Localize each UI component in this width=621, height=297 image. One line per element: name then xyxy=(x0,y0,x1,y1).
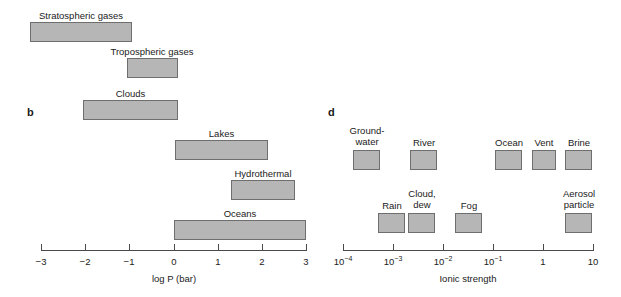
bar-stratospheric-gases xyxy=(30,22,132,42)
bar-fog xyxy=(455,213,482,233)
axis-tick-label-d-3: 10−1 xyxy=(473,256,513,267)
tick-base-d-4: 1 xyxy=(540,256,545,267)
bar-label-brine: Brine xyxy=(558,137,600,148)
bar-tropospheric-gases xyxy=(127,58,178,78)
bar-rain xyxy=(378,213,405,233)
bar-label-clouds: Clouds xyxy=(83,88,178,99)
bar-label-stratospheric-gases: Stratospheric gases xyxy=(30,10,132,21)
axis-title-panel-b: log P (bar) xyxy=(114,273,234,284)
axis-tick-label-b-5: 2 xyxy=(242,256,282,267)
axis-tick-d-2 xyxy=(443,244,444,251)
bar-label-fog: Fog xyxy=(448,200,490,211)
bar-river xyxy=(410,150,437,170)
bar-aerosol-particle xyxy=(565,213,592,233)
tick-base-d-2: 10 xyxy=(434,256,445,267)
axis-tick-label-d-2: 10−2 xyxy=(423,256,463,267)
bar-oceans xyxy=(174,220,306,240)
bar-label-hydrothermal: Hydrothermal xyxy=(229,168,297,179)
axis-tick-b-3 xyxy=(174,244,175,251)
tick-exp-d-2: −2 xyxy=(444,255,452,262)
axis-tick-label-b-3: 0 xyxy=(154,256,194,267)
axis-tick-label-b-6: 3 xyxy=(286,256,326,267)
axis-tick-b-5 xyxy=(262,244,263,251)
panel-letter-d: d xyxy=(328,106,335,118)
bar-label-cloud-dew: Cloud, dew xyxy=(399,188,445,210)
figure-canvas: b Stratospheric gases Tropospheric gases… xyxy=(0,0,621,297)
axis-tick-d-1 xyxy=(393,244,394,251)
bar-label-river: River xyxy=(403,137,445,148)
bar-ocean xyxy=(495,150,522,170)
tick-base-d-5: 10 xyxy=(588,256,599,267)
bar-hydrothermal xyxy=(231,180,295,200)
axis-tick-label-b-2: −1 xyxy=(109,256,149,267)
axis-tick-label-b-0: −3 xyxy=(21,256,61,267)
tick-exp-d-0: −4 xyxy=(344,255,352,262)
bar-clouds xyxy=(83,100,178,120)
panel-letter-b: b xyxy=(27,106,34,118)
axis-tick-label-d-1: 10−3 xyxy=(373,256,413,267)
axis-tick-b-1 xyxy=(85,244,86,251)
tick-base-d-0: 10 xyxy=(334,256,345,267)
bar-label-tropospheric-gases: Tropospheric gases xyxy=(102,46,202,57)
axis-tick-b-2 xyxy=(129,244,130,251)
axis-title-panel-d: Ionic strength xyxy=(408,273,528,284)
axis-tick-b-0 xyxy=(41,244,42,251)
bar-groundwater xyxy=(353,150,380,170)
axis-tick-d-0 xyxy=(343,244,344,251)
axis-tick-d-5 xyxy=(593,244,594,251)
axis-tick-label-d-0: 10−4 xyxy=(323,256,363,267)
bar-label-aerosol-particle: Aerosol particle xyxy=(552,188,606,210)
bar-brine xyxy=(565,150,592,170)
axis-tick-label-b-1: −2 xyxy=(65,256,105,267)
axis-tick-d-3 xyxy=(493,244,494,251)
bar-label-groundwater: Ground- water xyxy=(344,125,390,147)
axis-tick-b-4 xyxy=(218,244,219,251)
bar-label-lakes: Lakes xyxy=(175,128,268,139)
tick-base-d-1: 10 xyxy=(384,256,395,267)
axis-tick-label-b-4: 1 xyxy=(198,256,238,267)
bar-lakes xyxy=(175,140,268,160)
axis-tick-b-6 xyxy=(306,244,307,251)
bar-label-oceans: Oceans xyxy=(174,208,306,219)
axis-tick-d-4 xyxy=(543,244,544,251)
axis-tick-label-d-5: 10 xyxy=(573,256,613,267)
tick-exp-d-1: −3 xyxy=(394,255,402,262)
tick-base-d-3: 10 xyxy=(484,256,495,267)
axis-line-panel-d xyxy=(343,250,593,251)
bar-cloud-dew xyxy=(408,213,435,233)
bar-vent xyxy=(532,150,556,170)
tick-exp-d-3: −1 xyxy=(494,255,502,262)
axis-tick-label-d-4: 1 xyxy=(523,256,563,267)
